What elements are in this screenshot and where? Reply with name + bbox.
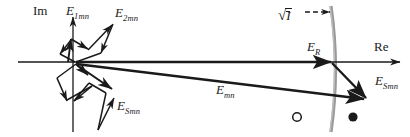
imaginary-axis-label: Im [33, 4, 47, 17]
vector-label-ESmn-right-sub: Smn [383, 81, 398, 91]
vector-label-ESmn-lower-sub: Smn [125, 106, 140, 116]
vector-label-ESmn-right-base: E [375, 73, 383, 88]
vector-label-ESmn-right: ESmn [375, 74, 398, 90]
phasor-diagram-figure: Im Re E1mn E2mn ESmn Emn ER ESmn √I [0, 0, 410, 137]
sqrt-mean-intensity-label: √I [278, 8, 292, 23]
vector-label-ESmn-lower: ESmn [117, 99, 140, 115]
vector-upper-seg-5 [101, 24, 113, 53]
vector-label-ER-base: E [307, 39, 315, 54]
vector-label-Emn-base: E [216, 82, 224, 97]
phasor-diagram-canvas [0, 0, 410, 137]
vector-ESmn-right [332, 63, 366, 98]
vector-label-ER-sub: R [315, 47, 320, 57]
vector-label-E1mn-base: E [66, 3, 74, 18]
vector-upper-seg-4 [88, 25, 112, 50]
vector-lower-seg-3 [57, 78, 67, 101]
sqrt-symbol-group: √I [278, 8, 292, 23]
vector-lower-seg-7 [89, 83, 106, 93]
filled-circle-marker [348, 112, 357, 121]
real-axis-label: Re [374, 40, 388, 53]
sqrt-radicand: I [285, 8, 291, 22]
overbar-icon [286, 11, 289, 12]
vector-upper-seg-6 [76, 53, 101, 62]
vector-lower-seg-6 [74, 83, 89, 101]
vector-label-E2mn-base: E [115, 5, 123, 20]
vector-lower-seg-9 [98, 93, 106, 130]
vector-label-ER: ER [307, 40, 320, 56]
vector-label-E1mn: E1mn [66, 4, 89, 20]
vector-label-Emn: Emn [216, 83, 235, 99]
vector-label-Emn-sub: mn [224, 90, 235, 100]
vector-label-ESmn-lower-base: E [117, 98, 125, 113]
vector-label-E2mn: E2mn [115, 6, 138, 22]
vector-label-E1mn-sub: 1mn [74, 11, 89, 21]
open-circle-marker [293, 113, 302, 122]
vector-lower-seg-10 [98, 98, 114, 130]
vector-label-E2mn-sub: 2mn [123, 13, 138, 23]
